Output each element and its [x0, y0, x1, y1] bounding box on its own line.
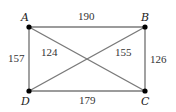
complete-graph-diagram: A B C D 190 126 179 157 124 155	[0, 0, 176, 112]
weight-label-b-c: 126	[150, 53, 167, 65]
vertex-c	[142, 88, 147, 93]
weight-label-d-b: 155	[115, 46, 132, 58]
vertex-label-c: C	[141, 95, 150, 108]
weight-label-a-c: 124	[41, 46, 58, 58]
weight-label-a-d: 157	[8, 52, 25, 64]
weight-label-d-c: 179	[79, 94, 96, 106]
vertex-label-a: A	[20, 11, 29, 24]
weight-label-a-b: 190	[78, 10, 95, 22]
vertex-a	[26, 24, 31, 29]
vertex-label-b: B	[140, 11, 149, 24]
vertex-label-d: D	[20, 95, 30, 108]
vertex-b	[142, 24, 147, 29]
vertex-d	[26, 88, 31, 93]
